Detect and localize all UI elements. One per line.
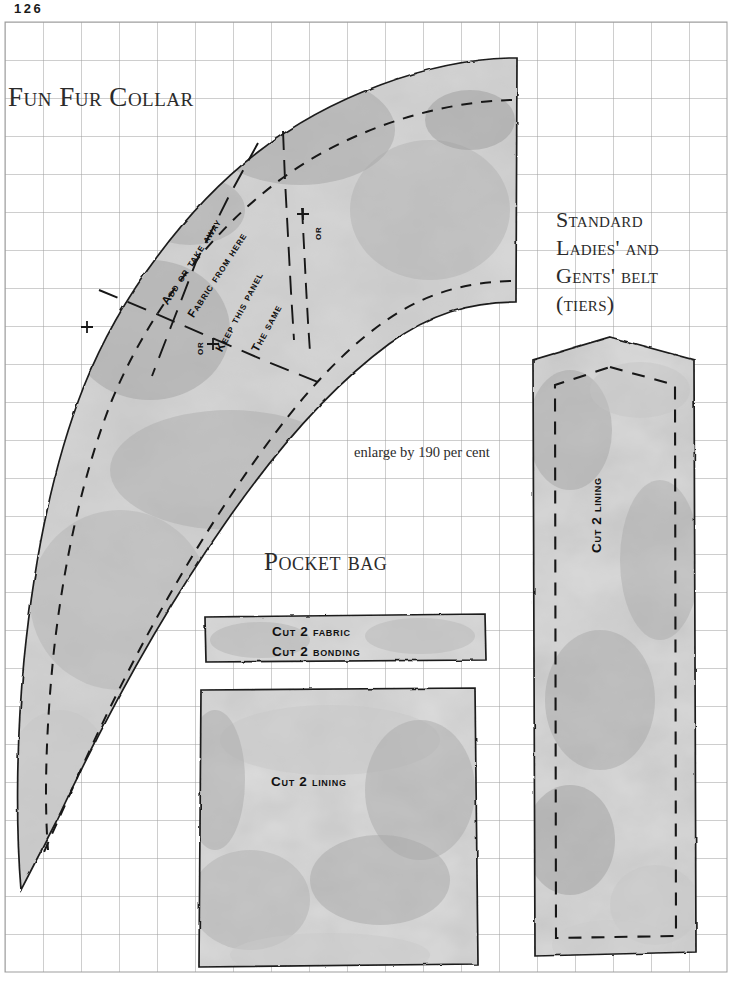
piece-pocket-square [185, 684, 485, 977]
pattern-pieces [0, 0, 733, 996]
piece-pocket-strip [198, 610, 493, 668]
piece-belt [525, 330, 705, 970]
pattern-page: 126 [0, 0, 733, 996]
